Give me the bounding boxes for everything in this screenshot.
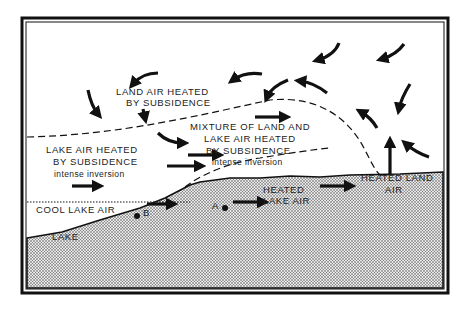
heated-land-label-1: HEATED LAND xyxy=(361,172,433,183)
heated-lake-label-1: HEATED xyxy=(263,184,304,195)
land-air-label-2: BY SUBSIDENCE xyxy=(126,97,211,108)
lake-air-label-1: LAKE AIR HEATED xyxy=(46,144,138,155)
land-ground xyxy=(27,172,443,288)
lake-breeze-diagram: LAND AIR HEATED BY SUBSIDENCE MIXTURE OF… xyxy=(0,0,467,313)
mixture-label-1: MIXTURE OF LAND AND xyxy=(190,121,310,132)
cool-lake-air-label: COOL LAKE AIR xyxy=(36,204,115,215)
lake-label: LAKE xyxy=(52,231,79,242)
lake-air-label-3: intense inversion xyxy=(54,169,125,179)
point-b-marker xyxy=(134,213,140,219)
land-air-label-1: LAND AIR HEATED xyxy=(116,86,209,97)
point-a-marker xyxy=(222,205,228,211)
mixture-label-3: BY SUBSIDENCE xyxy=(206,145,291,156)
heated-land-label-2: AIR xyxy=(385,184,403,195)
mixture-label-4: intense inversion xyxy=(212,157,283,167)
point-b-label: B xyxy=(143,207,150,218)
lake-air-label-2: BY SUBSIDENCE xyxy=(53,156,138,167)
point-a-label: A xyxy=(212,200,219,211)
heated-lake-label-2: LAKE AIR xyxy=(263,195,310,206)
mixture-label-2: LAKE AIR HEATED xyxy=(204,133,296,144)
